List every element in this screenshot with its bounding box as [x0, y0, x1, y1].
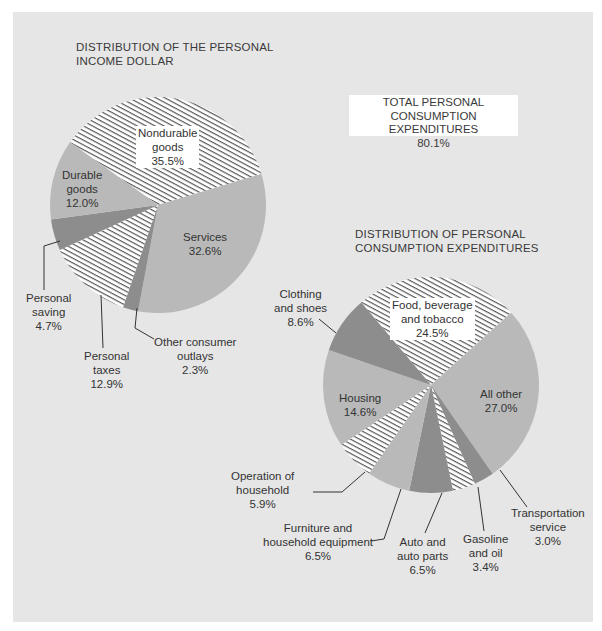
label-value: 6.5%: [263, 549, 373, 563]
label-text: Personal: [84, 349, 129, 363]
label-text: Auto and: [397, 535, 448, 549]
label-value: 12.9%: [84, 377, 129, 391]
label-value: 3.0%: [511, 534, 585, 548]
pie1-title-line-1: DISTRIBUTION OF THE PERSONAL: [76, 40, 274, 54]
label-text: auto parts: [397, 549, 448, 563]
label-transportation-service: Transportation service 3.0%: [511, 506, 585, 548]
leader-gasoline: [478, 487, 484, 531]
label-text: household equipment: [263, 535, 373, 549]
label-gasoline-and-oil: Gasoline and oil 3.4%: [463, 532, 508, 574]
label-value: 4.7%: [26, 319, 71, 333]
label-value: 32.6%: [183, 244, 227, 258]
label-text: Food, beverage: [390, 298, 475, 312]
label-text: goods: [136, 140, 199, 154]
pie1-title: DISTRIBUTION OF THE PERSONAL INCOME DOLL…: [76, 40, 274, 68]
label-all-other: All other 27.0%: [480, 387, 522, 415]
label-text: Personal: [26, 291, 71, 305]
label-text: outlays: [154, 349, 236, 363]
label-value: 6.5%: [397, 563, 448, 577]
label-text: Housing: [339, 391, 381, 405]
label-personal-saving: Personal saving 4.7%: [26, 291, 71, 333]
label-operation-of-household: Operation of household 5.9%: [231, 469, 294, 511]
leader-transportation: [500, 470, 527, 507]
label-durable-goods: Durable goods 12.0%: [62, 168, 102, 210]
label-value: 3.4%: [463, 560, 508, 574]
label-value: 12.0%: [62, 196, 102, 210]
label-text: and oil: [463, 546, 508, 560]
pie2-title-line-1: DISTRIBUTION OF PERSONAL: [355, 227, 539, 241]
label-text: Furniture and: [263, 521, 373, 535]
pie2-title-line-2: CONSUMPTION EXPENDITURES: [355, 241, 539, 255]
label-text: goods: [62, 182, 102, 196]
callout-line-2: CONSUMPTION EXPENDITURES: [349, 110, 518, 137]
leader-furniture: [371, 489, 401, 541]
callout-value: 80.1%: [349, 137, 518, 151]
label-text: Nondurable: [136, 126, 199, 140]
label-text: Gasoline: [463, 532, 508, 546]
label-other-consumer-outlays: Other consumer outlays 2.3%: [154, 335, 236, 377]
label-text: taxes: [84, 363, 129, 377]
label-services: Services 32.6%: [183, 230, 227, 258]
label-text: service: [511, 520, 585, 534]
label-value: 8.6%: [274, 315, 327, 329]
label-text: Clothing: [274, 287, 327, 301]
label-value: 27.0%: [480, 401, 522, 415]
label-text: Transportation: [511, 506, 585, 520]
label-value: 14.6%: [339, 405, 381, 419]
label-value: 2.3%: [154, 363, 236, 377]
leader-operation: [313, 472, 365, 492]
label-food-beverage-tobacco: Food, beverage and tobacco 24.5%: [390, 298, 475, 340]
label-value: 24.5%: [390, 326, 475, 340]
label-nondurable-goods: Nondurable goods 35.5%: [136, 126, 199, 168]
label-value: 35.5%: [136, 154, 199, 168]
label-furniture-household-equipment: Furniture and household equipment 6.5%: [263, 521, 373, 563]
label-text: saving: [26, 305, 71, 319]
label-text: Services: [183, 230, 227, 244]
label-text: and shoes: [274, 301, 327, 315]
leader-personal-taxes: [101, 295, 103, 348]
label-clothing-and-shoes: Clothing and shoes 8.6%: [274, 287, 327, 329]
label-auto-and-auto-parts: Auto and auto parts 6.5%: [397, 535, 448, 577]
label-text: household: [231, 483, 294, 497]
total-consumption-callout: TOTAL PERSONAL CONSUMPTION EXPENDITURES …: [349, 95, 518, 136]
label-housing: Housing 14.6%: [339, 391, 381, 419]
label-text: All other: [480, 387, 522, 401]
pie1-title-line-2: INCOME DOLLAR: [76, 54, 274, 68]
label-text: Durable: [62, 168, 102, 182]
label-text: and tobacco: [390, 312, 475, 326]
callout-line-1: TOTAL PERSONAL: [349, 96, 518, 110]
label-text: Operation of: [231, 469, 294, 483]
label-personal-taxes: Personal taxes 12.9%: [84, 349, 129, 391]
label-value: 5.9%: [231, 497, 294, 511]
leader-personal-saving: [44, 241, 60, 290]
label-text: Other consumer: [154, 335, 236, 349]
pie2-title: DISTRIBUTION OF PERSONAL CONSUMPTION EXP…: [355, 227, 539, 255]
leader-auto: [425, 493, 442, 533]
